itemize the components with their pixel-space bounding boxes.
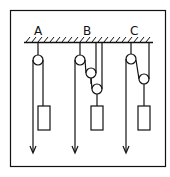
pulley-system-c xyxy=(123,43,150,153)
label-b: B xyxy=(83,24,91,38)
label-c: C xyxy=(130,24,138,38)
pulley-b-fixed xyxy=(75,55,85,65)
pulley-a-fixed xyxy=(33,55,43,65)
pulley-c-movable xyxy=(139,74,149,84)
pulley-c-fixed xyxy=(126,54,136,64)
pulley-b-movable-2 xyxy=(92,84,102,94)
load-weight-b xyxy=(91,106,103,130)
pulley-system-a xyxy=(30,43,50,153)
label-a: A xyxy=(34,24,43,38)
pulley-b-movable-1 xyxy=(86,68,96,78)
load-weight-a xyxy=(38,106,50,130)
load-weight-c xyxy=(138,106,150,130)
pulley-diagram: A B C xyxy=(0,0,170,177)
pulley-system-b xyxy=(72,43,103,153)
